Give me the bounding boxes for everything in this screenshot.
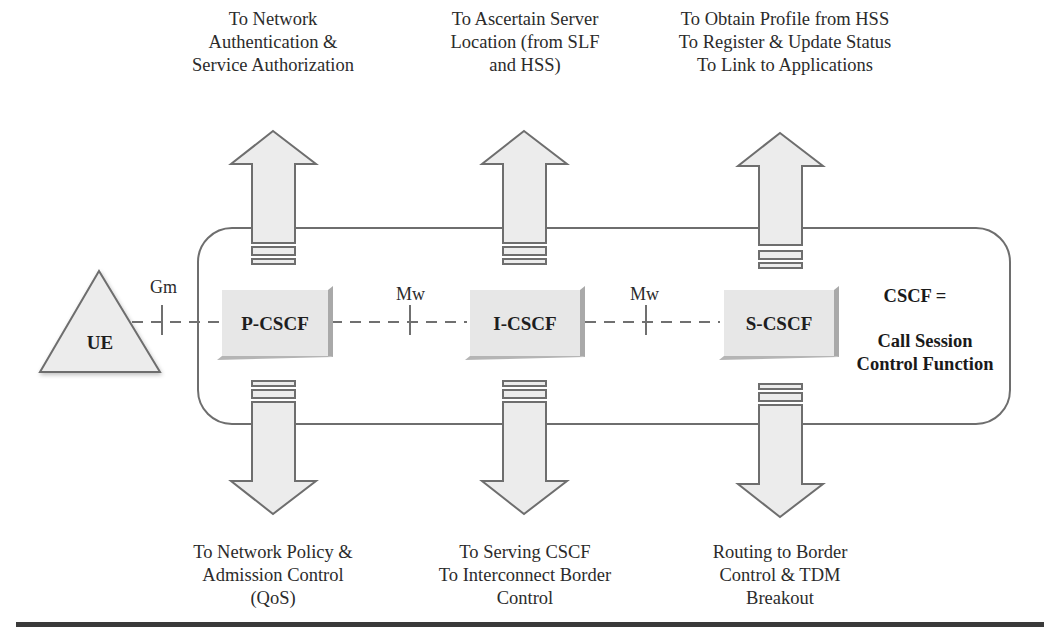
s-cscf-up-description: To Obtain Profile from HSS To Register &… — [660, 8, 910, 77]
up-arrow-i-cscf — [482, 131, 567, 264]
cscf-definition-line1: Call Session — [840, 330, 1010, 353]
bottom-rule — [16, 622, 1044, 627]
up-arrow-p-cscf — [231, 131, 316, 264]
i-cscf-up-description: To Ascertain Server Location (from SLF a… — [420, 8, 630, 77]
s-cscf-down-description: Routing to Border Control & TDM Breakout — [670, 541, 890, 610]
down-arrow-p-cscf — [231, 381, 316, 514]
cscf-definition-line2: Control Function — [840, 353, 1010, 376]
ue-label: UE — [70, 332, 130, 354]
interface-label-mw-2: Mw — [630, 284, 659, 305]
node-label-i-cscf: I-CSCF — [470, 313, 580, 335]
interface-label-gm: Gm — [150, 277, 177, 298]
cscf-definition-acronym: CSCF = — [860, 285, 970, 308]
down-arrow-s-cscf — [738, 384, 823, 517]
p-cscf-up-description: To Network Authentication & Service Auth… — [168, 8, 378, 77]
down-arrow-i-cscf — [482, 381, 567, 514]
i-cscf-down-description: To Serving CSCF To Interconnect Border C… — [410, 541, 640, 610]
p-cscf-down-description: To Network Policy & Admission Control (Q… — [168, 541, 378, 610]
node-label-s-cscf: S-CSCF — [724, 313, 834, 335]
node-label-p-cscf: P-CSCF — [222, 313, 328, 335]
up-arrow-s-cscf — [738, 133, 823, 268]
interface-label-mw-1: Mw — [396, 284, 425, 305]
